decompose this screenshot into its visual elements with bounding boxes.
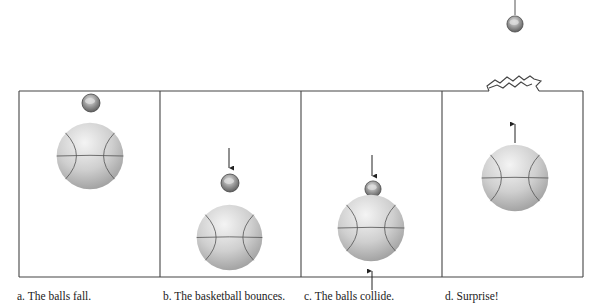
- small-ball: [221, 174, 239, 192]
- caption-d: d. Surprise!: [445, 290, 499, 302]
- small-ball: [365, 181, 381, 197]
- caption-b: b. The basketball bounces.: [163, 290, 285, 302]
- small-ball: [507, 16, 523, 32]
- caption-c: c. The balls collide.: [304, 290, 394, 302]
- ball-collision-diagram: [0, 0, 606, 308]
- caption-a: a. The balls fall.: [17, 290, 91, 302]
- basketball: [197, 205, 263, 271]
- panel-a: [57, 94, 124, 189]
- small-ball: [82, 94, 100, 112]
- panel-b: [197, 148, 263, 270]
- basketball: [482, 145, 549, 212]
- panel-c: [338, 155, 405, 290]
- panel-d: [482, 0, 549, 211]
- basketball: [57, 123, 124, 190]
- basketball: [338, 195, 405, 262]
